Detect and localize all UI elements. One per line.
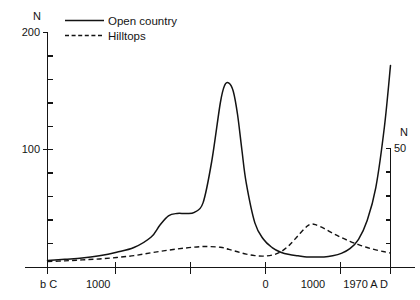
left-axis-tick-label-100: 100 bbox=[22, 143, 40, 155]
left-axis-tick-label-200: 200 bbox=[22, 26, 40, 38]
x-axis-label-1970-ad: 1970 A D bbox=[343, 278, 388, 290]
legend-label-open-country: Open country bbox=[108, 15, 177, 27]
pollen-diagram-chart: N 200 100 N 50 bbox=[0, 0, 420, 300]
chart-figure: N 200 100 N 50 bbox=[0, 0, 420, 300]
right-axis-tick-label-50: 50 bbox=[394, 142, 406, 154]
legend-label-hilltops: Hilltops bbox=[108, 30, 146, 42]
right-axis: N 50 bbox=[386, 126, 409, 267]
x-axis-label-bc: b C bbox=[40, 278, 57, 290]
left-axis-title: N bbox=[33, 10, 41, 22]
left-axis: N 200 100 bbox=[22, 10, 53, 267]
x-axis-label-1000-ad: 1000 bbox=[301, 278, 325, 290]
right-axis-title: N bbox=[400, 126, 408, 138]
x-axis-label-zero: 0 bbox=[262, 278, 268, 290]
x-axis-label-1000-bc: 1000 bbox=[86, 278, 110, 290]
series-line-open-country bbox=[48, 65, 391, 260]
right-axis-minor-ticks bbox=[386, 172, 391, 244]
series-group bbox=[48, 65, 391, 261]
chart-legend: Open country Hilltops bbox=[65, 15, 177, 42]
x-axis: b C 1000 0 1000 1970 A D bbox=[25, 262, 415, 290]
